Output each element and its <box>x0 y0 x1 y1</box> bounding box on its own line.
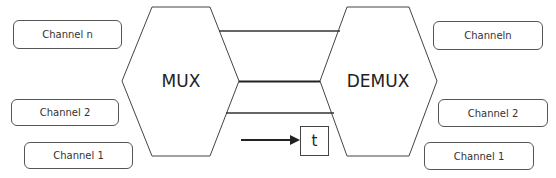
mux-label: MUX <box>162 71 201 91</box>
right-channel-1-label: Channel 1 <box>454 151 505 162</box>
right-channel-2: Channel 2 <box>438 99 548 127</box>
right-channel-n-label: Channeln <box>464 30 511 41</box>
left-channel-n: Channel n <box>13 20 122 49</box>
time-arrow-head-icon <box>290 135 300 145</box>
left-channel-1-label: Channel 1 <box>53 150 104 161</box>
right-channel-1: Channel 1 <box>424 142 534 170</box>
left-channel-2: Channel 2 <box>11 99 119 126</box>
right-channel-n: Channeln <box>433 21 543 50</box>
left-channel-2-label: Channel 2 <box>40 107 91 118</box>
demux-label: DEMUX <box>347 71 410 91</box>
left-channel-n-label: Channel n <box>42 29 93 40</box>
right-channel-2-label: Channel 2 <box>468 108 519 119</box>
left-channel-1: Channel 1 <box>24 142 133 169</box>
time-label: t <box>312 132 318 150</box>
time-box: t <box>300 126 329 156</box>
